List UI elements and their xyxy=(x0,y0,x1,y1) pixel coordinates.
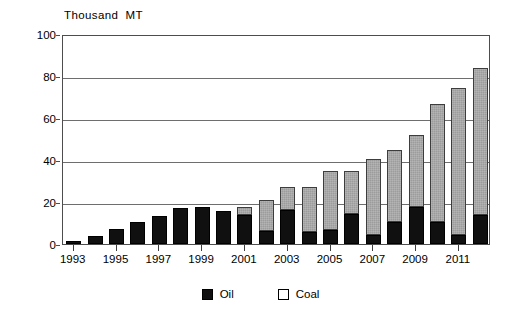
bar-group xyxy=(259,200,274,244)
bar-group xyxy=(280,187,295,244)
bar-segment-oil xyxy=(473,215,488,244)
y-axis-unit-label: Thousand MT xyxy=(64,9,143,21)
bar-segment-coal xyxy=(323,171,338,231)
bar-group xyxy=(473,68,488,244)
bar-group xyxy=(302,187,317,244)
x-axis-tick-label: 2007 xyxy=(352,253,392,265)
bar-segment-oil xyxy=(259,231,274,244)
x-axis-tick-label: 2011 xyxy=(438,253,478,265)
x-axis-tick-mark xyxy=(372,245,373,251)
bar-segment-coal xyxy=(473,68,488,215)
bar-group xyxy=(152,216,167,244)
x-axis-tick-marks xyxy=(62,245,490,253)
x-axis-tick-mark xyxy=(244,245,245,251)
x-axis-tick-mark xyxy=(330,245,331,251)
bar-segment-oil xyxy=(387,222,402,244)
x-axis-tick-label: 1997 xyxy=(138,253,178,265)
x-axis-tick-mark xyxy=(158,245,159,251)
bar-segment-oil xyxy=(430,222,445,244)
bar-segment-oil xyxy=(409,207,424,244)
bar-segment-coal xyxy=(430,104,445,222)
bar-group xyxy=(195,207,210,244)
chart-legend: OilCoal xyxy=(0,283,521,305)
bar-segment-coal xyxy=(366,159,381,235)
bar-segment-oil xyxy=(109,229,124,244)
bar-segment-oil xyxy=(323,230,338,244)
y-axis-tick-label: 80 xyxy=(10,71,56,83)
y-axis-tick-label: 100 xyxy=(10,29,56,41)
y-axis-tick-mark xyxy=(56,119,60,120)
y-axis-tick-labels: 020406080100 xyxy=(8,35,56,245)
bar-segment-coal xyxy=(237,207,252,214)
bar-group xyxy=(109,229,124,244)
bar-segment-oil xyxy=(216,211,231,244)
x-axis-tick-label: 2005 xyxy=(310,253,350,265)
bar-segment-coal xyxy=(259,200,274,232)
bar-group xyxy=(216,211,231,244)
x-axis-tick-label: 2001 xyxy=(224,253,264,265)
bar-segment-oil xyxy=(130,222,145,244)
legend-label: Coal xyxy=(296,288,320,300)
chart-figure: Thousand MT 020406080100 199319951997199… xyxy=(0,0,521,318)
y-axis-tick-mark xyxy=(56,245,60,246)
bar-group xyxy=(323,171,338,245)
bar-group xyxy=(237,207,252,244)
y-axis-tick-label: 60 xyxy=(10,113,56,125)
bar-group xyxy=(430,104,445,244)
bar-segment-coal xyxy=(302,187,317,232)
legend-label: Oil xyxy=(220,288,234,300)
x-axis-tick-mark xyxy=(458,245,459,251)
y-axis-tick-mark xyxy=(56,77,60,78)
bar-segment-oil xyxy=(88,236,103,244)
bar-group xyxy=(409,135,424,244)
bar-group xyxy=(88,236,103,244)
x-axis-tick-label: 1999 xyxy=(181,253,221,265)
y-axis-tick-mark xyxy=(56,35,60,36)
bar-group xyxy=(366,159,381,244)
bar-series-container xyxy=(63,36,489,244)
bar-segment-coal xyxy=(451,88,466,235)
bar-group xyxy=(387,150,402,245)
bar-group xyxy=(451,88,466,244)
y-axis-tick-label: 40 xyxy=(10,155,56,167)
bar-group xyxy=(173,208,188,244)
bar-segment-oil xyxy=(302,232,317,244)
bar-segment-oil xyxy=(366,235,381,244)
x-axis-tick-label: 1993 xyxy=(53,253,93,265)
bar-segment-oil xyxy=(173,208,188,244)
legend-swatch-icon xyxy=(202,289,213,300)
bar-segment-oil xyxy=(451,235,466,244)
y-axis-tick-label: 20 xyxy=(10,197,56,209)
plot-area xyxy=(62,35,490,245)
x-axis-tick-label: 2009 xyxy=(395,253,435,265)
legend-entry-oil: Oil xyxy=(202,288,234,300)
y-axis-tick-mark xyxy=(56,203,60,204)
y-axis-tick-mark xyxy=(56,161,60,162)
bar-segment-coal xyxy=(344,171,359,214)
legend-swatch-icon xyxy=(278,289,289,300)
bar-segment-coal xyxy=(409,135,424,207)
x-axis-tick-mark xyxy=(415,245,416,251)
x-axis-tick-label: 1995 xyxy=(96,253,136,265)
bar-group xyxy=(66,241,81,244)
bar-segment-oil xyxy=(344,214,359,244)
x-axis-tick-mark xyxy=(287,245,288,251)
x-axis-tick-mark xyxy=(116,245,117,251)
x-axis-tick-mark xyxy=(201,245,202,251)
bar-segment-coal xyxy=(280,187,295,210)
x-axis-tick-labels: 1993199519971999200120032005200720092011 xyxy=(0,253,521,271)
bar-segment-coal xyxy=(387,150,402,222)
bar-segment-oil xyxy=(237,215,252,244)
bar-group xyxy=(344,171,359,245)
bar-group xyxy=(130,222,145,244)
legend-entry-coal: Coal xyxy=(278,288,320,300)
x-axis-tick-mark xyxy=(73,245,74,251)
bar-segment-oil xyxy=(66,241,81,244)
x-axis-tick-label: 2003 xyxy=(267,253,307,265)
bar-segment-oil xyxy=(195,207,210,244)
y-axis-tick-label: 0 xyxy=(10,239,56,251)
bar-segment-oil xyxy=(152,216,167,244)
bar-segment-oil xyxy=(280,210,295,244)
